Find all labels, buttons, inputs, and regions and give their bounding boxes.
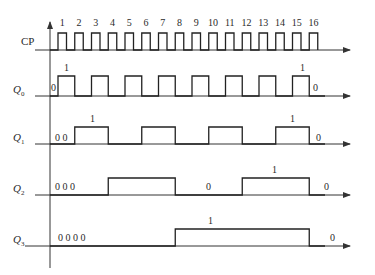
- pulse-number: 3: [93, 17, 98, 28]
- clock-pulse-numbers: 12345678910111213141516: [60, 17, 319, 28]
- pulse-number: 1: [60, 17, 65, 28]
- cp-waveform: [50, 33, 318, 50]
- q0-waveform: [50, 76, 325, 96]
- q0-high-value-2: 1: [300, 62, 305, 73]
- pulse-number: 11: [225, 17, 235, 28]
- q2-high-value: 1: [272, 164, 277, 175]
- q1-end-value: 0: [316, 132, 321, 143]
- q0-end-value: 0: [313, 82, 318, 93]
- q1-high-value: 1: [90, 113, 95, 124]
- pulse-number: 2: [77, 17, 82, 28]
- q3-end-value: 0: [330, 232, 335, 243]
- cp-label: CP: [21, 35, 34, 47]
- pulse-number: 16: [309, 17, 319, 28]
- q1-waveform: [50, 127, 325, 144]
- pulse-number: 10: [208, 17, 218, 28]
- q2-end-value: 0: [324, 181, 329, 192]
- q3-high-value: 1: [208, 215, 213, 226]
- q2-label: Q2: [13, 182, 25, 197]
- pulse-number: 14: [275, 17, 285, 28]
- timing-diagram: CP Q0 Q1 Q2 Q3 12345678910111213141516 0…: [0, 0, 375, 275]
- pulse-number: 8: [177, 17, 182, 28]
- pulse-number: 7: [160, 17, 165, 28]
- q2-waveform: [50, 178, 325, 195]
- pulse-number: 6: [144, 17, 149, 28]
- pulse-number: 5: [127, 17, 132, 28]
- q2-start-value: 0 0 0: [55, 181, 75, 192]
- q0-label: Q0: [13, 83, 25, 98]
- pulse-number: 9: [194, 17, 199, 28]
- pulse-number: 15: [292, 17, 302, 28]
- q2-mid-value: 0: [206, 181, 211, 192]
- q0-start-value: 0: [51, 82, 56, 93]
- pulse-number: 13: [258, 17, 268, 28]
- q1-high-value-2: 1: [290, 113, 295, 124]
- q1-label: Q1: [13, 131, 25, 146]
- q0-high-value: 1: [64, 62, 69, 73]
- pulse-number: 4: [110, 17, 115, 28]
- q3-waveform: [50, 229, 325, 246]
- q3-start-value: 0 0 0 0: [58, 232, 86, 243]
- q1-start-value: 0 0: [55, 132, 68, 143]
- q3-label: Q3: [13, 233, 25, 248]
- pulse-number: 12: [242, 17, 252, 28]
